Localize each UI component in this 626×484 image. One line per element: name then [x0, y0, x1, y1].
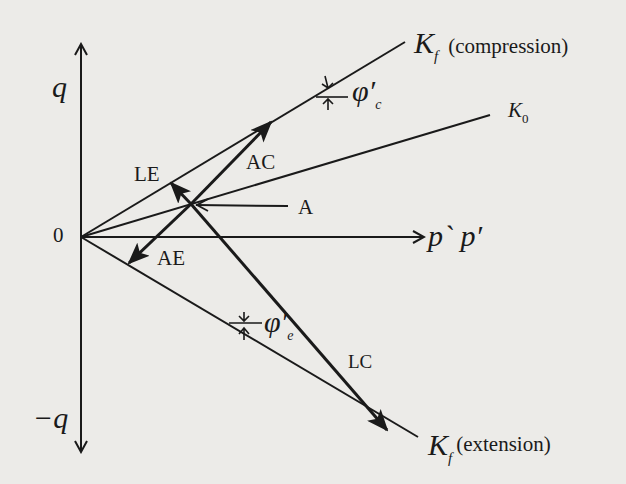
- path-lc-label: LC: [348, 352, 372, 371]
- point-a-pointer: [196, 205, 288, 206]
- k0-subscript: 0: [522, 111, 529, 126]
- path-ac-label: AC: [246, 152, 275, 173]
- kf-compression-subscript: f: [434, 48, 438, 64]
- kf-compression-symbol: K: [414, 26, 434, 59]
- kf-extension-note: (extension): [456, 432, 550, 456]
- phi-e-angle-marker: [229, 312, 262, 340]
- kf-compression-note: (compression): [448, 34, 568, 58]
- p-axis-label: p` p′: [428, 221, 482, 251]
- stress-path-diagram: q −q 0 p` p′ Kf (compression) K0 Kf (ext…: [0, 0, 626, 484]
- phi-c-subscript: c: [375, 97, 381, 112]
- origin-label: 0: [53, 225, 64, 246]
- phi-c-label: φ′c: [352, 76, 381, 106]
- k0-label: K0: [508, 100, 529, 121]
- path-le-arrow: [171, 183, 191, 204]
- phi-e-symbol: φ′: [264, 305, 287, 338]
- point-a-label: A: [298, 197, 313, 218]
- path-le-label: LE: [134, 164, 160, 185]
- kf-compression-line: [81, 42, 405, 237]
- phi-e-subscript: e: [287, 328, 293, 343]
- k0-symbol: K: [508, 98, 522, 122]
- negative-q-axis-label: −q: [33, 403, 68, 433]
- q-axis-label: q: [52, 72, 67, 102]
- phi-c-symbol: φ′: [352, 74, 375, 107]
- kf-extension-subscript: f: [448, 450, 452, 466]
- diagram-canvas: [0, 0, 626, 484]
- kf-compression-label: Kf (compression): [414, 28, 568, 58]
- phi-e-label: φ′e: [264, 307, 293, 337]
- kf-extension-label: Kf (extension): [428, 430, 551, 460]
- kf-extension-symbol: K: [428, 428, 448, 461]
- path-ae-label: AE: [157, 248, 185, 269]
